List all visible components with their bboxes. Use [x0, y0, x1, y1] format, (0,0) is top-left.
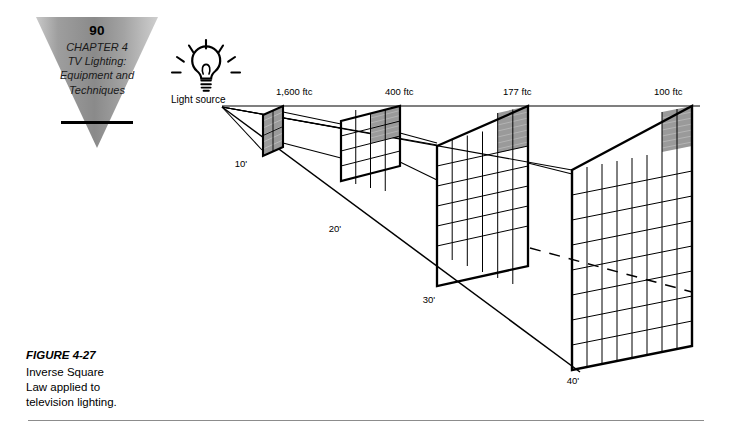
- lightbulb-icon: [172, 40, 240, 91]
- bottom-divider: [28, 420, 704, 421]
- panel-40ft: [530, 106, 692, 370]
- light-source-label: Light source: [171, 94, 226, 105]
- distance-label-10ft: 10': [235, 158, 248, 169]
- dashed-ray: [530, 248, 692, 292]
- distance-label-40ft: 40': [567, 375, 580, 386]
- distance-label-20ft: 20': [329, 223, 342, 234]
- figure-description-line-1: Inverse Square: [26, 365, 206, 380]
- figure-description-line-3: television lighting.: [26, 395, 206, 410]
- panel-20ft: [341, 106, 400, 191]
- intensity-label-4: 100 ftc: [654, 86, 683, 97]
- figure-label: FIGURE 4-27: [26, 348, 206, 364]
- panel-10ft: [263, 106, 283, 156]
- intensity-label-1: 1,600 ftc: [276, 86, 313, 97]
- distance-label-30ft: 30': [423, 294, 436, 305]
- intensity-label-2: 400 ftc: [385, 86, 414, 97]
- intensity-label-3: 177 ftc: [503, 86, 532, 97]
- figure-caption: FIGURE 4-27 Inverse Square Law applied t…: [26, 348, 206, 410]
- figure-page: 90 CHAPTER 4 TV Lighting: Equipment and …: [0, 0, 732, 433]
- figure-description-line-2: Law applied to: [26, 380, 206, 395]
